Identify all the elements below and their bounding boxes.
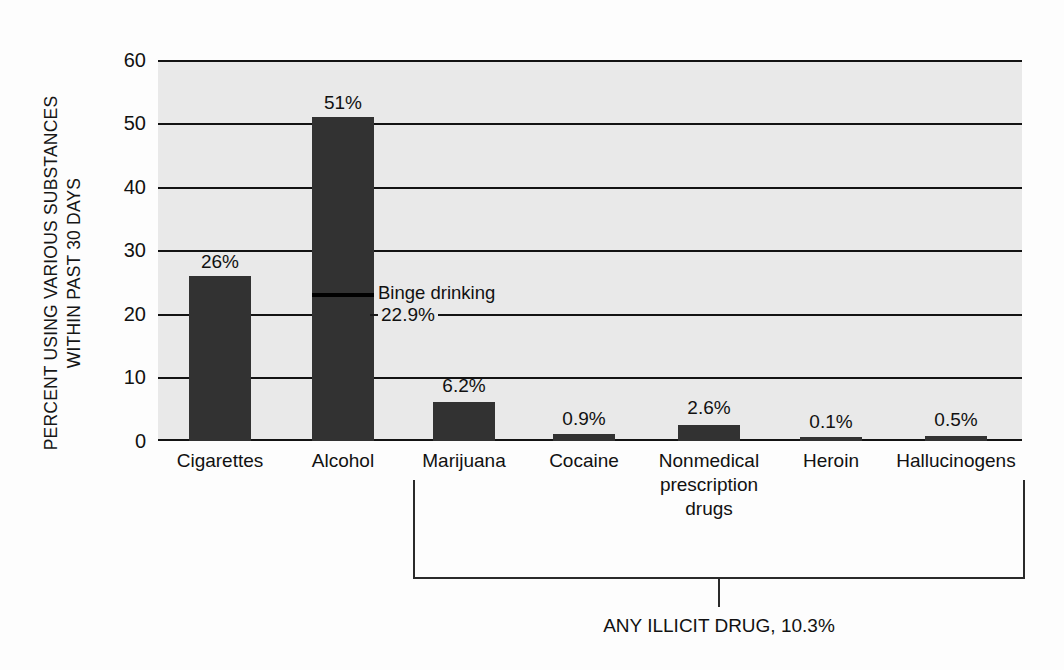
gridline-50	[158, 123, 1022, 125]
x-label-cocaine-line-1: Cocaine	[549, 450, 619, 471]
illicit-bracket-label: ANY ILLICIT DRUG, 10.3%	[519, 615, 919, 637]
binge-drinking-marker-line	[312, 293, 374, 297]
x-label-nonmedical-line-2: prescription	[648, 473, 770, 497]
illicit-bracket-stem	[718, 577, 720, 607]
x-label-heroin-line-1: Heroin	[803, 450, 859, 471]
value-label-marijuana: 6.2%	[403, 376, 525, 395]
x-label-nonmedical: Nonmedical prescription drugs	[648, 449, 770, 521]
plot-area	[158, 60, 1022, 441]
gridline-30	[158, 250, 1022, 252]
bar-alcohol[interactable]	[312, 117, 374, 441]
x-label-cocaine: Cocaine	[523, 449, 645, 473]
x-label-alcohol-line-1: Alcohol	[312, 450, 374, 471]
value-label-cigarettes: 26%	[159, 252, 281, 271]
value-label-heroin: 0.1%	[770, 412, 892, 431]
gridline-40	[158, 187, 1022, 189]
y-tick-40: 40	[94, 177, 146, 197]
bar-cocaine[interactable]	[553, 434, 615, 441]
gridline-60	[158, 60, 1022, 62]
value-label-cocaine: 0.9%	[523, 409, 645, 428]
x-label-hallucinogens: Hallucinogens	[888, 449, 1024, 473]
value-label-nonmedical: 2.6%	[648, 398, 770, 417]
binge-drinking-value: 22.9%	[378, 305, 438, 324]
y-axis-title-line-2: WITHIN PAST 30 DAYS	[63, 63, 86, 483]
gridline-20	[158, 314, 1022, 316]
value-label-hallucinogens: 0.5%	[895, 410, 1017, 429]
x-label-alcohol: Alcohol	[282, 449, 404, 473]
value-label-alcohol: 51%	[282, 93, 404, 112]
bar-hallucinogens[interactable]	[925, 436, 987, 442]
x-label-heroin: Heroin	[770, 449, 892, 473]
x-label-cigarettes: Cigarettes	[159, 449, 281, 473]
x-label-nonmedical-line-1: Nonmedical	[648, 449, 770, 473]
x-label-cigarettes-line-1: Cigarettes	[177, 450, 264, 471]
bar-chart-figure: PERCENT USING VARIOUS SUBSTANCES WITHIN …	[0, 0, 1064, 670]
illicit-bracket-right-arm	[1023, 480, 1025, 579]
x-label-marijuana-line-1: Marijuana	[422, 450, 505, 471]
bar-heroin[interactable]	[800, 437, 862, 441]
bar-nonmedical[interactable]	[678, 425, 740, 442]
y-tick-0: 0	[94, 431, 146, 451]
binge-drinking-label: Binge drinking	[378, 281, 495, 305]
y-tick-30: 30	[94, 240, 146, 260]
y-tick-50: 50	[94, 113, 146, 133]
y-axis-tick-labels: 60 50 40 30 20 10 0	[88, 0, 146, 670]
illicit-bracket-left-arm	[413, 480, 415, 579]
x-label-hallucinogens-line-1: Hallucinogens	[896, 450, 1015, 471]
bar-marijuana[interactable]	[433, 402, 495, 441]
y-axis-title-line-1: PERCENT USING VARIOUS SUBSTANCES	[40, 63, 63, 483]
bar-cigarettes[interactable]	[189, 276, 251, 441]
x-label-nonmedical-line-3: drugs	[648, 497, 770, 521]
gridline-10	[158, 377, 1022, 379]
y-tick-10: 10	[94, 367, 146, 387]
x-label-marijuana: Marijuana	[403, 449, 525, 473]
y-tick-20: 20	[94, 304, 146, 324]
y-tick-60: 60	[94, 50, 146, 70]
